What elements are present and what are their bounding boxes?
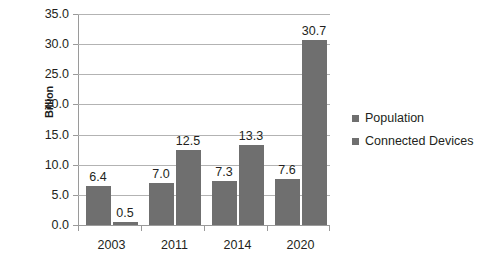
bar: 6.4 xyxy=(86,186,111,225)
legend-item-label: Population xyxy=(365,111,424,125)
x-axis-tick xyxy=(78,226,79,231)
chart-legend: PopulationConnected Devices xyxy=(352,111,473,157)
bar-value-label: 12.5 xyxy=(176,134,200,148)
bar-value-label: 13.3 xyxy=(239,129,263,143)
y-axis-tick xyxy=(73,14,78,15)
bar: 12.5 xyxy=(176,150,201,225)
square-swatch-icon xyxy=(352,138,359,145)
bar: 30.7 xyxy=(302,40,327,225)
y-axis-tick xyxy=(73,135,78,136)
bar-value-label: 7.3 xyxy=(215,165,232,179)
bar-value-label: 30.7 xyxy=(302,24,326,38)
y-axis-tick xyxy=(73,44,78,45)
bar-group: 7.012.52011 xyxy=(149,13,201,225)
x-axis-tick xyxy=(267,226,268,231)
y-axis-tick-label: 15.0 xyxy=(45,128,69,142)
plot-area: 0.05.010.015.020.025.030.035.0 6.40.5200… xyxy=(78,14,330,226)
x-axis-category-label: 2020 xyxy=(287,238,315,252)
y-axis-tick-label: 35.0 xyxy=(45,7,69,21)
x-axis-category-label: 2003 xyxy=(98,238,126,252)
y-axis-tick-label: 10.0 xyxy=(45,158,69,172)
bar: 7.6 xyxy=(275,179,300,225)
legend-item[interactable]: Connected Devices xyxy=(352,134,473,148)
x-axis-tick xyxy=(141,226,142,231)
x-axis-tick xyxy=(204,226,205,231)
y-axis-tick-label: 30.0 xyxy=(45,37,69,51)
bar: 0.5 xyxy=(113,222,138,225)
bar-value-label: 0.5 xyxy=(116,206,133,220)
bar-group: 7.313.32014 xyxy=(212,13,264,225)
y-axis-tick xyxy=(73,195,78,196)
x-axis-category-label: 2011 xyxy=(161,238,188,252)
x-axis-tick xyxy=(329,226,330,231)
y-axis-tick-label: 5.0 xyxy=(52,188,69,202)
bar: 7.0 xyxy=(149,183,174,225)
square-swatch-icon xyxy=(352,115,359,122)
legend-item[interactable]: Population xyxy=(352,111,473,125)
bar: 13.3 xyxy=(239,145,264,225)
bar-group: 6.40.52003 xyxy=(86,13,138,225)
y-axis-tick-label: 20.0 xyxy=(45,97,69,111)
y-axis-tick xyxy=(73,104,78,105)
bar-chart: Billion 0.05.010.015.020.025.030.035.0 6… xyxy=(0,0,487,268)
y-axis-tick xyxy=(73,165,78,166)
bar-value-label: 7.0 xyxy=(152,167,169,181)
bar-group: 7.630.72020 xyxy=(275,13,327,225)
legend-item-label: Connected Devices xyxy=(365,134,473,148)
y-axis-tick xyxy=(73,74,78,75)
bar-value-label: 7.6 xyxy=(278,163,295,177)
y-axis-tick-label: 25.0 xyxy=(45,67,69,81)
bar: 7.3 xyxy=(212,181,237,225)
bar-value-label: 6.4 xyxy=(89,170,106,184)
x-axis-category-label: 2014 xyxy=(224,238,252,252)
y-axis-tick-label: 0.0 xyxy=(52,218,69,232)
